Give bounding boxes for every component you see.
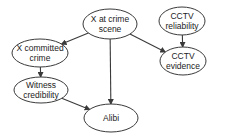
node-cctv_rel: CCTVreliability bbox=[159, 7, 205, 35]
node-label: evidence bbox=[166, 61, 200, 71]
node-label: CCTV bbox=[170, 11, 193, 21]
node-label: Alibi bbox=[103, 113, 119, 123]
edge-witness-to-alibi bbox=[62, 98, 90, 109]
node-label: credibility bbox=[23, 90, 59, 100]
node-alibi: Alibi bbox=[84, 104, 138, 132]
nodes: X at crimesceneCCTVreliabilityCCTVeviden… bbox=[12, 7, 206, 132]
node-label: X committed bbox=[16, 43, 64, 53]
node-label: reliability bbox=[165, 21, 199, 31]
bayesian-network-diagram: X at crimesceneCCTVreliabilityCCTVeviden… bbox=[0, 0, 228, 140]
node-label: X at crime bbox=[91, 14, 130, 24]
edge-scene-to-cctv_ev bbox=[130, 34, 165, 52]
node-scene: X at crimescene bbox=[83, 9, 137, 39]
node-label: CCTV bbox=[171, 51, 194, 61]
node-cctv_ev: CCTVevidence bbox=[160, 47, 206, 75]
edge-scene-to-alibi bbox=[110, 39, 111, 104]
node-committed: X committedcrime bbox=[12, 39, 68, 67]
node-label: scene bbox=[99, 24, 122, 34]
node-label: crime bbox=[30, 53, 51, 63]
node-label: Witness bbox=[26, 80, 56, 90]
node-witness: Witnesscredibility bbox=[14, 77, 68, 103]
edge-scene-to-committed bbox=[62, 33, 89, 44]
